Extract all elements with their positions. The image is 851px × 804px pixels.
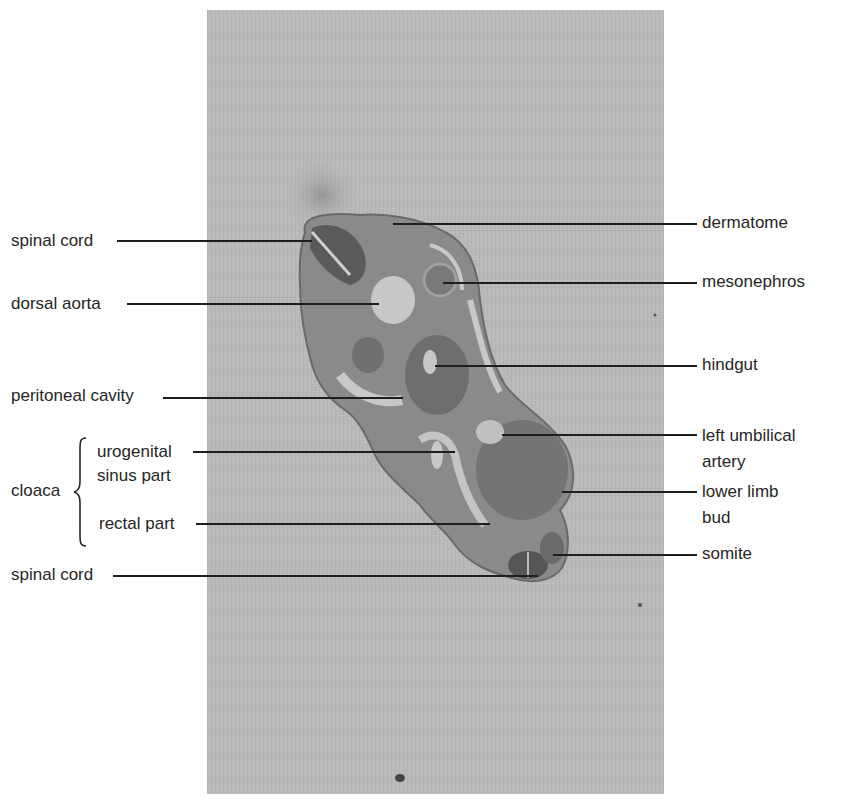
label-rectal-part: rectal part — [99, 512, 175, 536]
label-left-umbilical-line1: left umbilical — [702, 424, 796, 448]
mesonephros-structure — [424, 264, 456, 296]
label-dermatome: dermatome — [702, 211, 788, 235]
leader-somite — [553, 554, 697, 556]
label-hindgut: hindgut — [702, 353, 758, 377]
leader-peritoneal-cavity — [163, 397, 403, 399]
umbilical-artery-lumen — [476, 420, 504, 444]
leader-dorsal-aorta — [127, 303, 379, 305]
label-cloaca: cloaca — [11, 479, 60, 503]
leader-rectal-part — [196, 523, 490, 525]
label-urogenital-line2: sinus part — [97, 464, 171, 488]
leader-mesonephros — [443, 282, 697, 284]
gonadal-ridge — [352, 337, 384, 373]
debris-speck — [395, 774, 405, 782]
leader-dermatome — [393, 223, 697, 225]
label-lower-limb-line2: bud — [702, 506, 730, 530]
label-lower-limb-line1: lower limb — [702, 480, 779, 504]
label-spinal-cord-bottom: spinal cord — [11, 563, 93, 587]
leader-left-umbilical-artery — [502, 434, 697, 436]
cloaca-brace-icon — [72, 436, 92, 548]
label-dorsal-aorta: dorsal aorta — [11, 292, 101, 316]
debris-speck — [654, 314, 657, 317]
leader-urogenital-sinus — [193, 451, 455, 453]
hindgut-lumen — [423, 350, 437, 374]
leader-spinal-cord-bottom — [113, 575, 538, 577]
label-spinal-cord-top: spinal cord — [11, 229, 93, 253]
label-peritoneal-cavity: peritoneal cavity — [11, 384, 134, 408]
debris-speck — [638, 603, 642, 607]
leader-spinal-cord-top — [117, 240, 312, 242]
somite-structure — [540, 532, 564, 564]
hindgut-structure — [405, 335, 469, 415]
label-mesonephros: mesonephros — [702, 270, 805, 294]
urogenital-sinus-lumen — [431, 441, 443, 469]
label-left-umbilical-line2: artery — [702, 450, 745, 474]
label-somite: somite — [702, 542, 752, 566]
label-urogenital-line1: urogenital — [97, 440, 172, 464]
leader-hindgut — [435, 365, 697, 367]
dorsal-aorta-lumen — [371, 276, 415, 324]
leader-lower-limb-bud — [562, 491, 697, 493]
